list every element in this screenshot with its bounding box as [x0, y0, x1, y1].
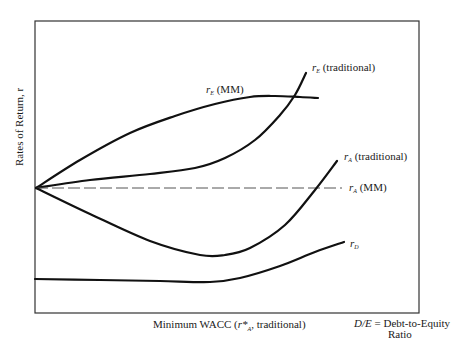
min-wacc-annotation: Minimum WACC (r*A, traditional)	[153, 318, 306, 332]
chart-canvas	[0, 0, 454, 348]
series-r-e-traditional	[36, 73, 306, 188]
curve-label-d: rD	[350, 238, 359, 250]
x-axis-label: D/E = Debt-to-Equity Ratio	[354, 318, 450, 340]
series-layer	[35, 73, 344, 282]
curve-label-a-traditional: rA (traditional)	[344, 151, 407, 163]
series-r-e-mm	[36, 96, 318, 188]
series-r-a-traditional	[36, 161, 337, 256]
y-axis-label: Rates of Return, r	[13, 88, 25, 166]
curve-label-e-mm: rE (MM)	[206, 84, 244, 96]
curve-label-a-mm: rA (MM)	[349, 182, 387, 194]
curve-label-e-traditional: rE (traditional)	[312, 62, 375, 74]
series-r-d	[35, 242, 344, 282]
